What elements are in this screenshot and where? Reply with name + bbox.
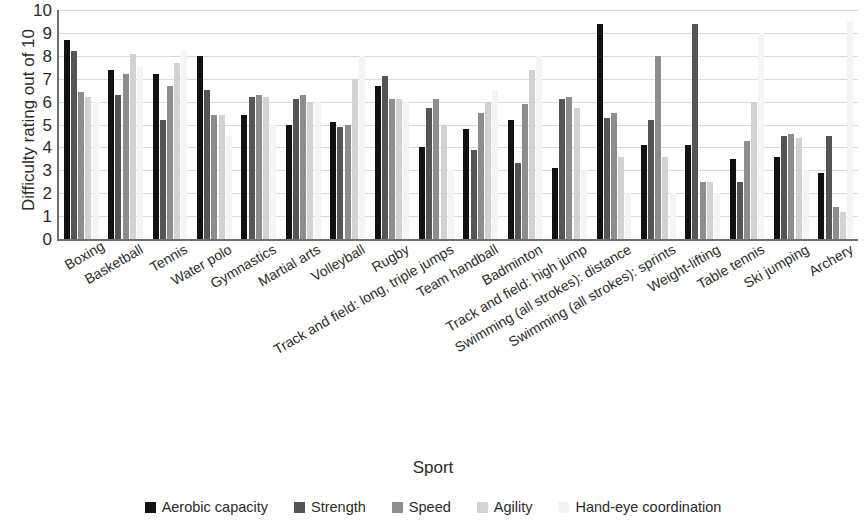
bar <box>85 97 91 239</box>
bar-group <box>680 10 724 239</box>
legend-swatch-icon <box>558 502 569 513</box>
bar <box>337 127 343 239</box>
bar <box>751 102 757 239</box>
bar <box>197 56 203 239</box>
y-tick-label: 0 <box>43 231 52 248</box>
bar <box>352 79 358 239</box>
legend-label: Aerobic capacity <box>162 500 268 515</box>
bar <box>463 129 469 239</box>
bar <box>788 134 794 239</box>
bar <box>737 182 743 239</box>
legend-label: Hand-eye coordination <box>575 500 721 515</box>
bar <box>574 108 580 239</box>
bar <box>226 136 232 239</box>
bar <box>286 125 292 240</box>
bar <box>93 102 99 239</box>
legend-swatch-icon <box>392 502 403 513</box>
bar-group <box>592 10 636 239</box>
bar <box>840 212 846 239</box>
bar <box>64 40 70 239</box>
bar <box>382 76 388 239</box>
legend-item[interactable]: Agility <box>477 500 533 515</box>
legend-item[interactable]: Hand-eye coordination <box>558 500 721 515</box>
bar <box>263 97 269 239</box>
bar-groups <box>59 10 858 239</box>
bar <box>648 120 654 239</box>
bar <box>204 90 210 239</box>
bar <box>774 157 780 239</box>
legend-swatch-icon <box>294 502 305 513</box>
chart-legend: Aerobic capacityStrengthSpeedAgilityHand… <box>0 500 866 515</box>
bar-group <box>237 10 281 239</box>
bar <box>123 74 129 239</box>
bar <box>700 182 706 239</box>
bar <box>618 157 624 239</box>
bar-group <box>281 10 325 239</box>
plot-area: 012345678910 <box>57 10 858 241</box>
bar <box>241 115 247 239</box>
bar-group <box>325 10 369 239</box>
bar <box>130 54 136 239</box>
bar <box>803 170 809 239</box>
bar <box>641 145 647 239</box>
y-tick-label: 6 <box>43 93 52 110</box>
y-tick-label: 10 <box>33 2 52 19</box>
bar <box>396 99 402 239</box>
legend-item[interactable]: Aerobic capacity <box>145 500 268 515</box>
bar <box>471 150 477 239</box>
bar <box>426 108 432 239</box>
bar <box>174 63 180 239</box>
bar <box>249 97 255 239</box>
y-axis-title: Difficulty rating out of 10 <box>19 0 39 245</box>
y-tick-label: 2 <box>43 185 52 202</box>
bar <box>744 141 750 239</box>
bar-group <box>725 10 769 239</box>
bar-group <box>148 10 192 239</box>
bar <box>270 125 276 240</box>
bar <box>515 163 521 239</box>
bar <box>307 102 313 239</box>
y-tick-label: 4 <box>43 139 52 156</box>
bar-group <box>192 10 236 239</box>
bar <box>662 157 668 239</box>
bar-group <box>769 10 813 239</box>
bar <box>167 86 173 239</box>
bar <box>758 33 764 239</box>
bar <box>581 170 587 239</box>
bar <box>552 168 558 239</box>
bar <box>403 102 409 239</box>
legend-item[interactable]: Strength <box>294 500 366 515</box>
bar <box>730 159 736 239</box>
bar <box>78 92 84 239</box>
bar-group <box>459 10 503 239</box>
bar <box>707 182 713 239</box>
bar <box>478 113 484 239</box>
bar <box>826 136 832 239</box>
bar-group <box>814 10 858 239</box>
bar <box>219 115 225 239</box>
bar <box>625 193 631 239</box>
bar <box>670 193 676 239</box>
bar <box>375 86 381 239</box>
bar <box>597 24 603 239</box>
bar <box>611 113 617 239</box>
bar-group <box>503 10 547 239</box>
bar <box>522 104 528 239</box>
bar-group <box>103 10 147 239</box>
bar <box>108 70 114 239</box>
bar <box>781 136 787 239</box>
y-tick-label: 1 <box>43 208 52 225</box>
bar <box>359 56 365 239</box>
bar-group <box>414 10 458 239</box>
y-tick-label: 5 <box>43 116 52 133</box>
bar <box>847 21 853 239</box>
bar <box>566 97 572 239</box>
bar <box>685 145 691 239</box>
bar <box>433 99 439 239</box>
y-tick-label: 7 <box>43 70 52 87</box>
bar <box>330 122 336 239</box>
y-tick-label: 3 <box>43 162 52 179</box>
bar <box>300 95 306 239</box>
legend-item[interactable]: Speed <box>392 500 451 515</box>
bar <box>818 173 824 239</box>
